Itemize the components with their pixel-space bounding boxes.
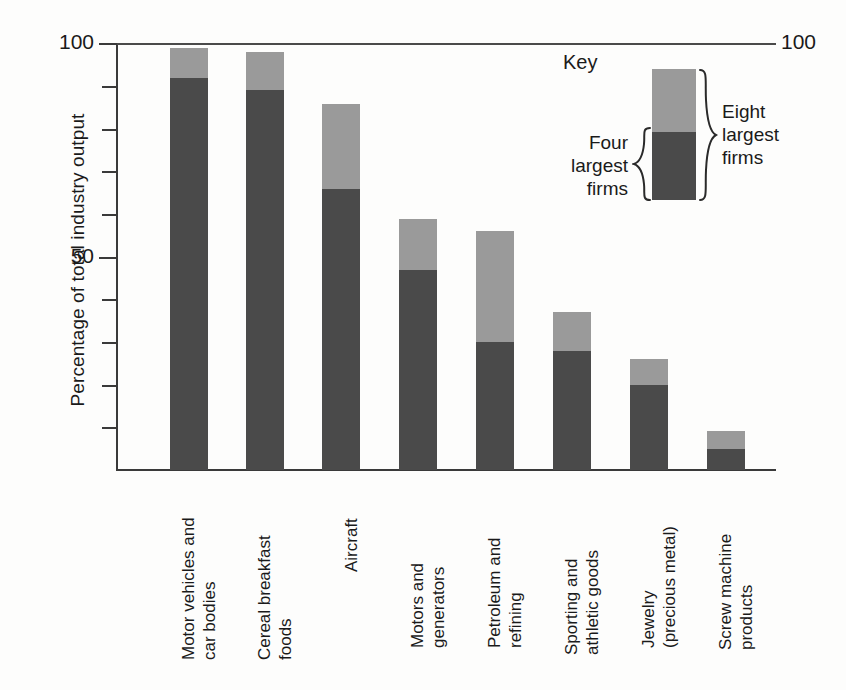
x-axis-label-jewelry-precious-metal: Jewelry (precious metal) [638, 526, 680, 648]
bar-segment-four-largest-firms [399, 270, 437, 470]
chart-container: Percentage of total industry output 100 … [0, 0, 846, 690]
bar-segment-four-largest-firms [707, 449, 745, 470]
y-tick-label-50: 50 [71, 244, 94, 268]
bar-sporting-and-athletic-goods [553, 312, 591, 470]
bar-aircraft [322, 104, 360, 470]
legend-label-eight-largest-firms: Eight largest firms [722, 100, 846, 169]
bar-segment-four-largest-firms [246, 90, 284, 470]
bar-motor-vehicles-and-car-bodies [170, 48, 208, 470]
y-tick-100 [99, 43, 117, 45]
x-axis-label-sporting-and-athletic-goods: Sporting and athletic goods [561, 550, 603, 655]
bar-segment-four-largest-firms [476, 342, 514, 470]
y-tick-label-50-box: 50 [22, 244, 94, 268]
legend-title: Key [563, 51, 597, 74]
x-axis-label-aircraft: Aircraft [341, 518, 362, 572]
bar-motors-and-generators [399, 219, 437, 470]
y-tick-50 [99, 257, 117, 259]
legend-swatch-four-largest-firms [652, 132, 696, 200]
x-axis-label-motors-and-generators: Motors and generators [407, 563, 449, 648]
legend-left-brace-icon [632, 126, 652, 202]
top-reference-line-100 [116, 43, 776, 45]
bar-petroleum-and-refining [476, 231, 514, 470]
x-axis-label-petroleum-and-refining: Petroleum and refining [484, 537, 526, 648]
y-tick-label-100: 100 [59, 30, 94, 54]
bar-segment-four-largest-firms [630, 385, 668, 470]
bar-screw-machine-products [707, 431, 745, 470]
bar-segment-four-largest-firms [553, 351, 591, 470]
y-tick-20 [102, 385, 117, 387]
y-tick-90 [102, 86, 117, 88]
bar-jewelry-precious-metal [630, 359, 668, 470]
y-tick-label-100-box: 100 [22, 30, 94, 54]
x-axis-label-motor-vehicles-and-car-bodies: Motor vehicles and car bodies [178, 517, 220, 660]
y-tick-60 [102, 214, 117, 216]
y-tick-label-100-right: 100 [781, 30, 816, 54]
bar-cereal-breakfast-foods [246, 52, 284, 470]
legend-right-brace-icon [696, 68, 718, 202]
legend-sample-bar [652, 69, 696, 200]
y-tick-30 [102, 342, 117, 344]
bar-segment-four-largest-firms [322, 189, 360, 470]
y-tick-40 [102, 299, 117, 301]
bar-segment-four-largest-firms [170, 78, 208, 470]
y-tick-70 [102, 171, 117, 173]
y-tick-80 [102, 129, 117, 131]
y-tick-10 [102, 427, 117, 429]
x-axis-label-cereal-breakfast-foods: Cereal breakfast foods [254, 535, 296, 660]
x-axis-label-screw-machine-products: Screw machine products [715, 534, 757, 650]
x-axis-line [116, 469, 776, 471]
legend-label-four-largest-firms: Four largest firms [482, 131, 628, 200]
